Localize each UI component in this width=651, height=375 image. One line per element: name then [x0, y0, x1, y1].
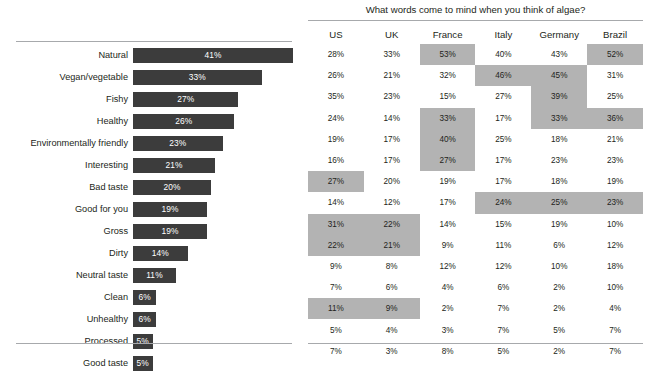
table-cell: 17% [475, 171, 531, 192]
bar-value-label: 33% [189, 73, 206, 81]
bar-chart-bottom-rule [16, 343, 292, 344]
table-column-header: Brazil [587, 24, 643, 44]
bar-value-label: 26% [175, 117, 192, 125]
table-row: 9%8%12%12%10%18% [308, 256, 643, 277]
table-row: 11%9%2%7%2%4% [308, 298, 643, 319]
table-cell: 7% [475, 319, 531, 340]
bar-category-label: Gross [0, 227, 133, 236]
table-cell: 6% [364, 277, 420, 298]
bar-value-label: 5% [137, 337, 149, 345]
table-cell: 21% [364, 65, 420, 86]
table-cell: 33% [531, 108, 587, 129]
table-cell: 6% [475, 277, 531, 298]
table-row: 16%17%27%17%23%23% [308, 150, 643, 171]
bar-row: Natural41% [0, 45, 300, 67]
table-cell: 25% [531, 192, 587, 213]
table-cell: 18% [587, 256, 643, 277]
table-cell: 33% [420, 108, 476, 129]
table-cell: 17% [475, 150, 531, 171]
table-cell: 9% [308, 256, 364, 277]
table-cell: 14% [308, 192, 364, 213]
table-cell: 2% [531, 277, 587, 298]
bar-row: Bad taste20% [0, 177, 300, 199]
bar-value-label: 11% [146, 271, 162, 279]
table-cell: 28% [308, 44, 364, 65]
bar-track: 11% [133, 265, 300, 287]
bar: 6% [133, 312, 156, 327]
bar-row: Environmentally friendly23% [0, 133, 300, 155]
table-cell: 9% [364, 298, 420, 319]
bar-value-label: 6% [139, 315, 151, 323]
table-column-header: US [308, 24, 364, 44]
table-cell: 7% [587, 319, 643, 340]
table-column-header: Germany [531, 24, 587, 44]
bar-value-label: 41% [204, 51, 221, 59]
bar-track: 19% [133, 221, 300, 243]
table-cell: 40% [475, 44, 531, 65]
table-cell: 3% [420, 319, 476, 340]
table-cell: 33% [364, 44, 420, 65]
table-cell: 18% [531, 129, 587, 150]
table-cell: 25% [475, 129, 531, 150]
table-row: 14%12%17%24%25%23% [308, 192, 643, 213]
table-cell: 40% [420, 129, 476, 150]
table-cell: 45% [531, 65, 587, 86]
bar-category-label: Environmentally friendly [0, 139, 133, 148]
table-cell: 19% [420, 171, 476, 192]
bar-category-label: Neutral taste [0, 271, 133, 280]
bar: 41% [133, 48, 293, 63]
bar-row: Interesting21% [0, 155, 300, 177]
table-cell: 23% [364, 86, 420, 107]
bar-category-label: Interesting [0, 161, 133, 170]
table-row: 31%22%14%15%19%10% [308, 214, 643, 235]
bar: 6% [133, 290, 156, 305]
table-cell: 53% [420, 44, 476, 65]
table-cell: 19% [308, 129, 364, 150]
bar-chart-top-rule [16, 41, 292, 42]
table-cell: 52% [587, 44, 643, 65]
table-top-rule [308, 20, 643, 21]
table-cell: 5% [531, 319, 587, 340]
bar-category-label: Processed [0, 337, 133, 346]
table-cell: 4% [420, 277, 476, 298]
bar: 14% [133, 246, 188, 261]
table-row: 24%14%33%17%33%36% [308, 108, 643, 129]
table-row: 26%21%32%46%45%31% [308, 65, 643, 86]
table-cell: 12% [420, 256, 476, 277]
bar-value-label: 5% [137, 359, 149, 367]
table-row: 35%23%15%27%39%25% [308, 86, 643, 107]
table-cell: 27% [308, 171, 364, 192]
table-cell: 26% [308, 65, 364, 86]
table-row: 7%6%4%6%2%10% [308, 277, 643, 298]
table-cell: 20% [364, 171, 420, 192]
table-cell: 19% [531, 214, 587, 235]
table-cell: 18% [531, 171, 587, 192]
bar-track: 20% [133, 177, 300, 199]
table-cell: 14% [420, 214, 476, 235]
bar: 19% [133, 224, 207, 239]
table-cell: 17% [364, 129, 420, 150]
bar-chart-bars: Natural41%Vegan/vegetable33%Fishy27%Heal… [0, 45, 300, 375]
table-cell: 27% [475, 86, 531, 107]
table-header-row: USUKFranceItalyGermanyBrazil [308, 24, 643, 44]
table-cell: 4% [364, 319, 420, 340]
table-column-header: France [420, 24, 476, 44]
table-cell: 46% [475, 65, 531, 86]
bar-category-label: Unhealthy [0, 315, 133, 324]
bar-value-label: 27% [177, 95, 194, 103]
bar-row: Vegan/vegetable33% [0, 67, 300, 89]
bar-row: Neutral taste11% [0, 265, 300, 287]
bar-row: Healthy26% [0, 111, 300, 133]
table-cell: 23% [587, 150, 643, 171]
table-cell: 12% [475, 256, 531, 277]
bar-row: Unhealthy6% [0, 309, 300, 331]
table-cell: 25% [587, 86, 643, 107]
table-cell: 35% [308, 86, 364, 107]
table-body: 28%33%53%40%43%52%26%21%32%46%45%31%35%2… [308, 44, 643, 362]
bar: 5% [133, 334, 153, 349]
table-cell: 36% [587, 108, 643, 129]
table-cell: 23% [587, 192, 643, 213]
table-cell: 7% [308, 277, 364, 298]
bar-value-label: 6% [139, 293, 151, 301]
